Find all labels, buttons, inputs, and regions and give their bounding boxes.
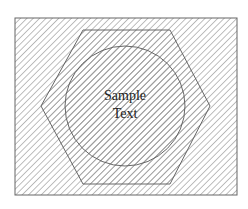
label-line-2: Text	[113, 106, 138, 121]
label-line-1: Sample	[104, 88, 146, 103]
hatched-diagram: Sample Text	[0, 0, 248, 209]
